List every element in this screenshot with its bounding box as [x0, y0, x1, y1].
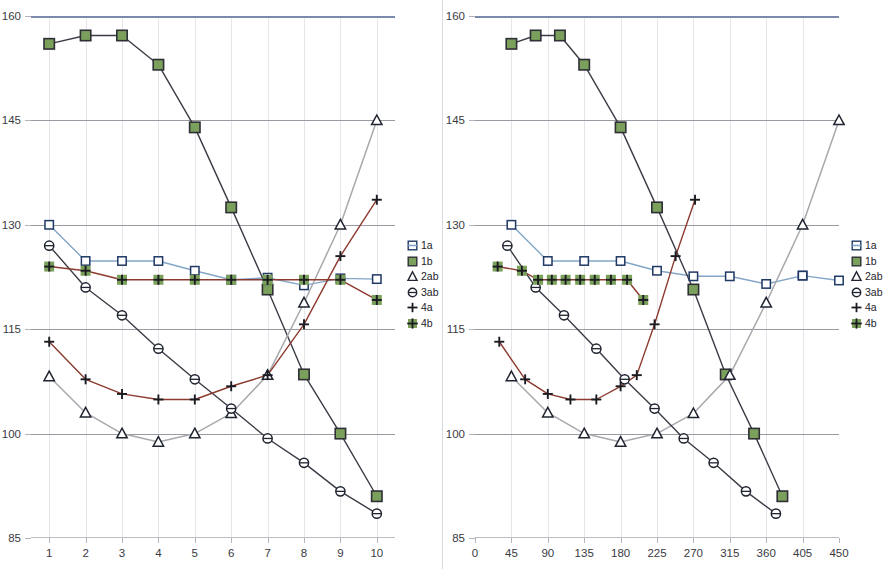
- legend-item-label: 1b: [865, 254, 877, 270]
- x-axis-label: 4: [138, 547, 178, 559]
- y-axis-tick: [25, 434, 31, 435]
- chart-panel-left: 85100115130145160123456789101a1b2ab3ab4a…: [0, 0, 442, 569]
- legend-marker-plus: [850, 301, 863, 314]
- x-axis-label: 7: [248, 547, 288, 559]
- chart-panel-right: 8510011513014516004590135180225270315360…: [442, 0, 884, 569]
- legend-marker-open-triangle: [406, 270, 419, 283]
- gridline-horizontal: [31, 329, 395, 330]
- legend-marker-open-square: [850, 239, 863, 252]
- legend-marker-open-triangle: [850, 270, 863, 283]
- legend-item-1a[interactable]: 1a: [406, 238, 439, 254]
- y-axis-tick: [469, 538, 475, 539]
- legend-item-label: 4a: [421, 300, 433, 316]
- legend-item-4a[interactable]: 4a: [850, 300, 883, 316]
- y-axis-label: 100: [431, 428, 465, 440]
- x-axis-tick: [548, 538, 549, 543]
- gridline-horizontal: [31, 225, 395, 226]
- legend-item-3ab[interactable]: 3ab: [406, 285, 439, 301]
- y-axis-label: 115: [431, 323, 465, 335]
- x-axis-label: 3: [102, 547, 142, 559]
- x-axis-tick: [475, 538, 476, 543]
- x-axis-tick: [657, 538, 658, 543]
- legend-item-4a[interactable]: 4a: [406, 300, 439, 316]
- gridline-horizontal: [31, 16, 395, 18]
- legend-item-3ab[interactable]: 3ab: [850, 285, 883, 301]
- y-axis-label: 145: [431, 114, 465, 126]
- x-axis-label: 450: [819, 547, 859, 559]
- legend-item-label: 2ab: [865, 269, 883, 285]
- chart-legend: 1a1b2ab3ab4a4b: [406, 238, 439, 331]
- x-axis-label: 9: [320, 547, 360, 559]
- legend-marker-green-square-plus: [850, 317, 863, 330]
- x-axis-label: 1: [29, 547, 69, 559]
- legend-item-label: 1b: [421, 254, 433, 270]
- gridline-horizontal: [475, 434, 839, 435]
- gridline-horizontal: [31, 120, 395, 121]
- legend-item-label: 1a: [865, 238, 877, 254]
- legend-item-2ab[interactable]: 2ab: [850, 269, 883, 285]
- gridline-vertical: [49, 16, 50, 538]
- x-axis-tick: [377, 538, 378, 543]
- x-axis-label: 405: [783, 547, 823, 559]
- x-axis-tick: [122, 538, 123, 543]
- x-axis-tick: [803, 538, 804, 543]
- figure-root: 85100115130145160123456789101a1b2ab3ab4a…: [0, 0, 884, 569]
- gridline-horizontal: [475, 120, 839, 121]
- x-axis-label: 2: [66, 547, 106, 559]
- x-axis-label: 8: [284, 547, 324, 559]
- x-axis-tick: [304, 538, 305, 543]
- y-axis-label: 160: [431, 10, 465, 22]
- x-axis-label: 90: [528, 547, 568, 559]
- legend-marker-open-circle: [406, 286, 419, 299]
- x-axis-label: 180: [601, 547, 641, 559]
- legend-marker-green-square-plus: [406, 317, 419, 330]
- legend-item-label: 4b: [865, 316, 877, 332]
- gridline-horizontal: [475, 16, 839, 18]
- x-axis-label: 45: [491, 547, 531, 559]
- gridline-vertical: [584, 16, 585, 538]
- y-axis-tick: [469, 225, 475, 226]
- x-axis-label: 5: [175, 547, 215, 559]
- y-axis-label: 100: [0, 428, 21, 440]
- y-axis-tick: [469, 434, 475, 435]
- y-axis-tick: [25, 225, 31, 226]
- x-axis-tick: [49, 538, 50, 543]
- gridline-vertical: [86, 16, 87, 538]
- y-axis-tick: [469, 329, 475, 330]
- gridline-vertical: [377, 16, 378, 538]
- x-axis-label: 10: [357, 547, 397, 559]
- x-axis-label: 315: [710, 547, 750, 559]
- legend-item-1a[interactable]: 1a: [850, 238, 883, 254]
- legend-marker-open-square: [406, 239, 419, 252]
- gridline-vertical: [693, 16, 694, 538]
- legend-item-4b[interactable]: 4b: [850, 316, 883, 332]
- legend-marker-open-circle: [850, 286, 863, 299]
- x-axis-label: 360: [746, 547, 786, 559]
- plot-area: 8510011513014516012345678910: [31, 16, 395, 538]
- y-axis-label: 130: [431, 219, 465, 231]
- legend-item-1b[interactable]: 1b: [850, 254, 883, 270]
- legend-item-2ab[interactable]: 2ab: [406, 269, 439, 285]
- y-axis-label: 145: [0, 114, 21, 126]
- y-axis-tick: [25, 538, 31, 539]
- legend-item-1b[interactable]: 1b: [406, 254, 439, 270]
- x-axis-tick: [693, 538, 694, 543]
- gridline-vertical: [621, 16, 622, 538]
- gridline-vertical: [122, 16, 123, 538]
- gridline-vertical: [730, 16, 731, 538]
- x-axis-tick: [231, 538, 232, 543]
- y-axis-label: 85: [0, 532, 21, 544]
- x-axis-tick: [730, 538, 731, 543]
- legend-item-label: 2ab: [421, 269, 439, 285]
- x-axis-tick: [511, 538, 512, 543]
- x-axis-label: 6: [211, 547, 251, 559]
- y-axis-tick: [469, 16, 475, 17]
- x-axis-tick: [340, 538, 341, 543]
- gridline-vertical: [340, 16, 341, 538]
- gridline-vertical: [158, 16, 159, 538]
- x-axis-tick: [621, 538, 622, 543]
- legend-item-label: 3ab: [421, 285, 439, 301]
- legend-marker-green-square: [850, 255, 863, 268]
- y-axis-label: 130: [0, 219, 21, 231]
- x-axis-tick: [766, 538, 767, 543]
